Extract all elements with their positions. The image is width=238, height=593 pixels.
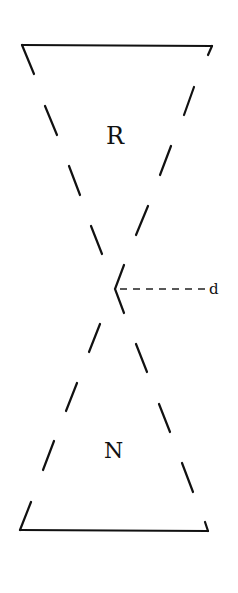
lower-right-dashed-edge	[136, 344, 193, 492]
top-boundary	[22, 45, 212, 74]
bottom-boundary	[20, 502, 208, 531]
upper-left-dashed-edge	[45, 106, 102, 254]
upper-right-dashed-edge	[136, 87, 194, 235]
label-n: N	[104, 438, 123, 463]
label-d: d	[209, 280, 219, 298]
hourglass-diagram: R N d	[0, 0, 238, 593]
lower-left-dashed-edge	[43, 324, 100, 470]
label-r: R	[106, 122, 125, 150]
